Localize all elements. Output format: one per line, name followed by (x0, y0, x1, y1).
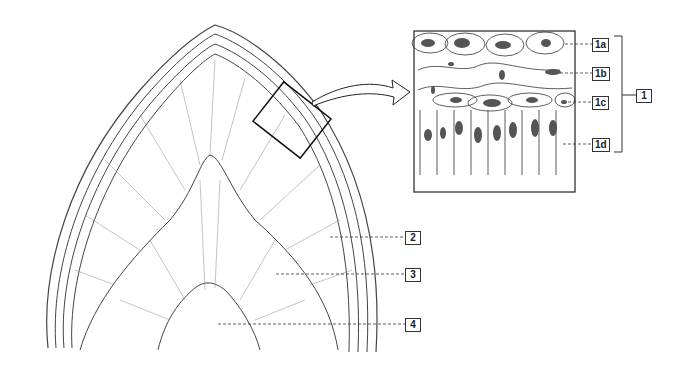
label-2: 2 (405, 231, 421, 245)
inset-enlargement (412, 31, 575, 192)
highlight-box (253, 82, 331, 158)
tooth-germ-diagram (0, 0, 688, 381)
label-1d: 1d (592, 138, 610, 152)
tooth-germ-section (47, 25, 377, 352)
label-1a: 1a (592, 38, 609, 52)
label-1c: 1c (592, 96, 609, 110)
arrow-icon (312, 80, 410, 106)
label-1: 1 (636, 89, 652, 103)
label-4: 4 (405, 318, 421, 332)
label-1b: 1b (592, 67, 610, 81)
label-3: 3 (405, 268, 421, 282)
